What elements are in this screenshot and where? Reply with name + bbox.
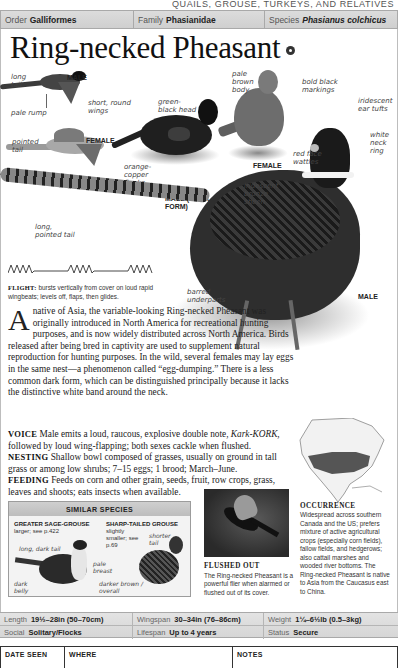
sage-grouse-head: [73, 540, 87, 550]
similar-species-name: GREATER SAGE-GROUSE: [14, 521, 90, 528]
voice-paragraph: VOICE Male emits a loud, raucous, explos…: [8, 429, 298, 452]
stats-row: Social Solitary/Flocks Lifespan Up to 4 …: [0, 626, 398, 639]
where-header: WHERE: [65, 647, 233, 668]
date-seen-header: DATE SEEN: [1, 647, 65, 668]
similar-species-note: larger; see p.422: [14, 528, 59, 535]
lifespan-stat: Lifespan Up to 4 years: [133, 626, 264, 639]
stats-bar: Length 19½–28in (50–70cm) Wingspan 30–34…: [0, 612, 398, 638]
similar-species-name: SHARP-TAILED GROUSE: [106, 521, 178, 528]
nesting-paragraph: NESTING Shallow bowl composed of grasses…: [8, 452, 298, 475]
similar-species-label: dark belly: [14, 580, 34, 594]
weight-value: 1¼–6½lb (0.5–3kg): [295, 615, 361, 624]
order-cell: Order Galliformes: [1, 11, 134, 28]
flight-description: FLIGHT: bursts vertically from cover on …: [8, 284, 158, 301]
lifespan-value: Up to 4 years: [169, 628, 216, 637]
taxonomy-bar: Order Galliformes Family Phasianidae Spe…: [0, 10, 398, 29]
stats-row: Length 19½–28in (50–70cm) Wingspan 30–34…: [0, 613, 398, 626]
occurrence-title: OCCURRENCE: [300, 502, 356, 510]
sighting-log-table: DATE SEEN WHERE NOTES: [0, 646, 398, 668]
voice-text: Male emits a loud, raucous, explosive do…: [40, 429, 229, 439]
flight-pattern-icon: [8, 262, 153, 274]
voice-call: Kark-KORK,: [231, 429, 280, 439]
flushed-out-photo: [204, 489, 289, 557]
similar-species-label: shorter tail: [149, 532, 171, 546]
flight-label: FLIGHT:: [8, 284, 37, 291]
species-description: Anative of Asia, the variable-looking Ri…: [8, 306, 298, 399]
order-value: Galliformes: [30, 15, 77, 25]
family-value: Phasianidae: [166, 15, 216, 25]
similar-species-label: pale breast: [93, 560, 117, 574]
sharp-tailed-grouse-illustration: [139, 550, 179, 584]
long-pointed-tail-label: long, pointed tail: [35, 223, 75, 239]
status-stat: Status Secure: [264, 626, 398, 639]
similar-species-label: darker brown / overall: [99, 580, 149, 594]
iridescent-ear-tufts-label: iridescent ear tufts: [358, 97, 398, 113]
male-main-caption: MALE: [358, 293, 378, 301]
length-label: Length: [4, 615, 27, 624]
length-stat: Length 19½–28in (50–70cm): [0, 613, 133, 625]
wingspan-label: Wingspan: [137, 615, 170, 624]
intro-paragraph: Anative of Asia, the variable-looking Ri…: [8, 306, 294, 399]
species-label: Species: [269, 15, 299, 25]
leader-line: [46, 94, 47, 108]
photo-caption-title: FLUSHED OUT: [204, 562, 260, 570]
iridescent-bronze-sheen-label: iridescent bronze sheen: [244, 182, 274, 206]
family-cell: Family Phasianidae: [134, 11, 265, 28]
dropcap: A: [8, 308, 30, 332]
nesting-text: Shallow bowl composed of grasses, usuall…: [8, 452, 277, 474]
species-value: Phasianus colchicus: [302, 15, 386, 25]
order-label: Order: [5, 15, 27, 25]
intro-text: native of Asia, the variable-looking Rin…: [8, 306, 293, 397]
similar-species-heading: SIMILAR SPECIES: [9, 502, 190, 516]
social-label: Social: [4, 628, 24, 637]
sage-grouse-breast: [71, 546, 87, 580]
occurrence-text: Widespread across southern Canada and th…: [300, 511, 392, 596]
social-value: Solitary/Flocks: [28, 628, 81, 637]
family-label: Family: [138, 15, 163, 25]
weight-stat: Weight 1¼–6½lb (0.5–3kg): [264, 613, 398, 625]
weight-label: Weight: [268, 615, 291, 624]
status-label: Status: [268, 628, 289, 637]
male-flight-caption: MALE: [67, 74, 87, 82]
wingspan-stat: Wingspan 30–34in (76–86cm): [133, 613, 264, 625]
status-value: Secure: [293, 628, 318, 637]
species-cell: Species Phasianus colchicus: [265, 11, 397, 28]
nesting-label: NESTING: [8, 452, 48, 462]
white-neck-ring-label: white neck ring: [370, 131, 396, 155]
barred-underparts-label: barred underparts: [187, 288, 221, 304]
similar-species-label: long, dark tail: [19, 545, 60, 552]
voice-label: VOICE: [8, 429, 37, 439]
range-map: [292, 418, 390, 502]
sharp-tailed-grouse-head: [169, 536, 183, 554]
similar-species-note: slightly smaller; see p.69: [106, 528, 142, 549]
long-tail-label: long tail: [11, 73, 37, 89]
photo-caption: The Ring-necked Pheasant is a powerful f…: [204, 572, 294, 597]
social-stat: Social Solitary/Flocks: [0, 626, 133, 639]
similar-species-box: SIMILAR SPECIES GREATER SAGE-GROUSE larg…: [8, 501, 191, 597]
pale-brown-body-label: pale brown body: [232, 70, 262, 94]
red-face-wattles-label: red face wattles: [293, 150, 323, 166]
voice-text-2: followed by loud wing-flapping; both sex…: [8, 441, 251, 451]
length-value: 19½–28in (50–70cm): [31, 615, 104, 624]
notes-header: NOTES: [233, 647, 397, 668]
wingspan-value: 30–34in (76–86cm): [174, 615, 240, 624]
bold-black-markings-label: bold black markings: [302, 78, 342, 94]
lifespan-label: Lifespan: [137, 628, 165, 637]
feeding-label: FEEDING: [8, 475, 49, 485]
audio-icon[interactable]: [286, 46, 295, 55]
